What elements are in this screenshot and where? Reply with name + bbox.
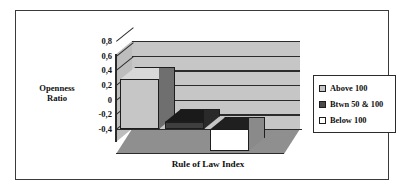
- gridline-0_8: [132, 41, 300, 42]
- chart-frame: 0,8 0,6 0,4 0,2 0 -0,2 -0,4 Openness Rat…: [15, 10, 389, 180]
- legend-swatch-btwn-50-100: [319, 101, 326, 108]
- legend-item-btwn-50-100[interactable]: Btwn 50 & 100: [319, 96, 395, 112]
- y-axis-title: Openness Ratio: [33, 83, 81, 103]
- y-tick-0_4: 0,4: [82, 66, 112, 75]
- y-axis-title-line2: Ratio: [33, 93, 81, 103]
- bar-above-100-front: [120, 79, 159, 129]
- y-tick-0_8: 0,8: [82, 37, 112, 46]
- bar-btwn-50-100-front: [165, 122, 204, 129]
- legend-item-above-100[interactable]: Above 100: [319, 80, 395, 96]
- y-tick-neg0_4: -0,4: [82, 125, 112, 134]
- floor-front-edge: [116, 153, 284, 154]
- gridlink-neg0_4: [116, 129, 133, 143]
- y-tick-0: 0: [82, 96, 112, 105]
- legend-label-btwn-50-100: Btwn 50 & 100: [330, 100, 383, 109]
- x-axis-title: Rule of Law Index: [120, 159, 296, 169]
- y-tick-0_2: 0,2: [82, 81, 112, 90]
- y-axis-title-line1: Openness: [33, 83, 81, 93]
- y-tick-0_6: 0,6: [82, 52, 112, 61]
- zero-baseline: [116, 129, 302, 130]
- legend-label-below-100: Below 100: [330, 116, 367, 125]
- y-tick-neg0_2: -0,2: [82, 110, 112, 119]
- legend-swatch-above-100: [319, 85, 326, 92]
- legend-label-above-100: Above 100: [330, 84, 367, 93]
- y-axis-tick-labels: 0,8 0,6 0,4 0,2 0 -0,2 -0,4: [79, 11, 112, 194]
- legend-swatch-below-100: [319, 117, 326, 124]
- gridline-0_6: [132, 56, 300, 57]
- legend-item-below-100[interactable]: Below 100: [319, 112, 395, 128]
- bar-below-100-front: [210, 129, 249, 151]
- chart-legend: Above 100 Btwn 50 & 100 Below 100: [313, 75, 396, 133]
- chart-floor: [116, 129, 300, 154]
- chart-canvas: 0,8 0,6 0,4 0,2 0 -0,2 -0,4 Openness Rat…: [0, 0, 403, 194]
